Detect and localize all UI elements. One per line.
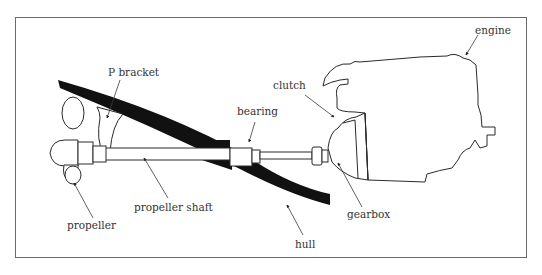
drivetrain-illustration xyxy=(0,0,542,275)
diagram-canvas: P bracket bearing clutch engine propelle… xyxy=(0,0,542,275)
label-p-bracket: P bracket xyxy=(108,67,159,78)
label-hull: hull xyxy=(295,239,315,250)
hull-shape xyxy=(58,80,330,205)
label-clutch: clutch xyxy=(273,80,306,91)
label-gearbox: gearbox xyxy=(347,209,390,220)
label-engine: engine xyxy=(475,25,511,36)
propeller-shape xyxy=(50,97,106,184)
gearbox-shape xyxy=(328,113,368,180)
p-bracket-shape xyxy=(97,107,123,152)
label-propeller: propeller xyxy=(67,220,116,231)
label-bearing: bearing xyxy=(237,106,278,117)
label-propeller-shaft: propeller shaft xyxy=(134,202,213,213)
